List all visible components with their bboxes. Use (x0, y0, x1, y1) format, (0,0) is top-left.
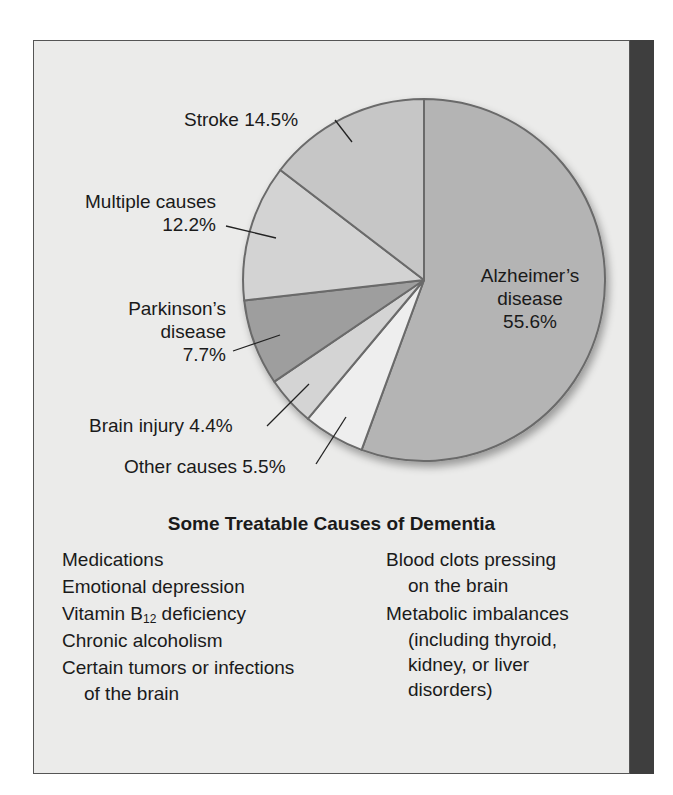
label-parkinsons: Parkinson’s disease 7.7% (60, 297, 226, 366)
treatable-item-line2: (including thyroid, (386, 627, 569, 652)
treatable-item: Chronic alcoholism (62, 627, 294, 654)
treatable-item-line1: Certain tumors or infections (62, 654, 294, 681)
treatable-item-line1: Blood clots pressing (386, 546, 569, 573)
vitamin-prefix: Vitamin B (62, 603, 143, 624)
label-parkinsons-line3: 7.7% (60, 343, 226, 366)
treatable-item-line1: Metabolic imbalances (386, 600, 569, 627)
label-alz-line1: Alzheimer’s (460, 264, 600, 287)
label-brain-injury: Brain injury 4.4% (89, 414, 233, 437)
treatable-item: Emotional depression (62, 573, 294, 600)
label-parkinsons-line1: Parkinson’s (60, 297, 226, 320)
treatable-item-line4: disorders) (386, 677, 569, 702)
vitamin-subscript: 12 (143, 612, 156, 626)
treatable-list-right: Blood clots pressing on the brain Metabo… (386, 546, 569, 702)
treatable-item: Vitamin B12 deficiency (62, 600, 294, 627)
label-multiple-causes: Multiple causes 12.2% (40, 190, 216, 236)
label-other-causes: Other causes 5.5% (124, 455, 286, 478)
treatable-item-line3: kidney, or liver (386, 652, 569, 677)
treatable-item-line2: on the brain (386, 573, 569, 598)
treatable-item: Medications (62, 546, 294, 573)
treatable-item: Metabolic imbalances (including thyroid,… (386, 600, 569, 702)
vitamin-suffix: deficiency (156, 603, 246, 624)
treatable-causes-title: Some Treatable Causes of Dementia (33, 513, 630, 535)
treatable-list-left: Medications Emotional depression Vitamin… (62, 546, 294, 706)
label-multiple-line1: Multiple causes (40, 190, 216, 213)
label-alz-line2: disease (460, 287, 600, 310)
label-parkinsons-line2: disease (60, 320, 226, 343)
label-multiple-line2: 12.2% (40, 213, 216, 236)
treatable-item: Certain tumors or infections of the brai… (62, 654, 294, 706)
treatable-item-line2: of the brain (62, 681, 294, 706)
label-stroke: Stroke 14.5% (184, 108, 298, 131)
treatable-item: Blood clots pressing on the brain (386, 546, 569, 598)
label-alzheimers: Alzheimer’s disease 55.6% (460, 264, 600, 333)
label-alz-line3: 55.6% (460, 310, 600, 333)
